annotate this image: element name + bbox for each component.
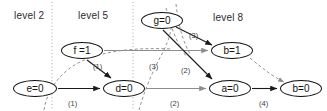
node-a[interactable]: a=0	[209, 80, 251, 97]
edge-label-f-d: (1)	[93, 62, 102, 71]
level-label-8: level 8	[213, 12, 243, 23]
edge-label-dashed: (3)	[149, 62, 158, 71]
node-g[interactable]: g=0	[141, 12, 183, 29]
edge-label-a-b0: (4)	[259, 99, 268, 108]
level-label-2: level 2	[14, 10, 44, 21]
level-label-5: level 5	[78, 10, 108, 21]
dashed-curve-g-right-b	[176, 4, 190, 54]
dashed-curve-b1-to-b0	[250, 58, 284, 82]
node-b1[interactable]: b=1	[211, 42, 253, 59]
edge-label-e-d: (1)	[68, 99, 77, 108]
edge-label-g-a: (2)	[181, 66, 190, 75]
edge-label-g-b1: (3)	[189, 31, 198, 40]
node-f[interactable]: f =1	[61, 42, 103, 59]
node-d[interactable]: d=0	[103, 80, 145, 97]
edge-label-d-a: (2)	[170, 99, 179, 108]
dashed-curve-lower-left	[44, 49, 172, 110]
node-b0[interactable]: b=0	[280, 80, 322, 97]
node-e[interactable]: e=0	[13, 80, 57, 97]
diagram-canvas: level 2 level 5 level 8 e=0 f =1 d=0 g=0…	[0, 0, 327, 111]
